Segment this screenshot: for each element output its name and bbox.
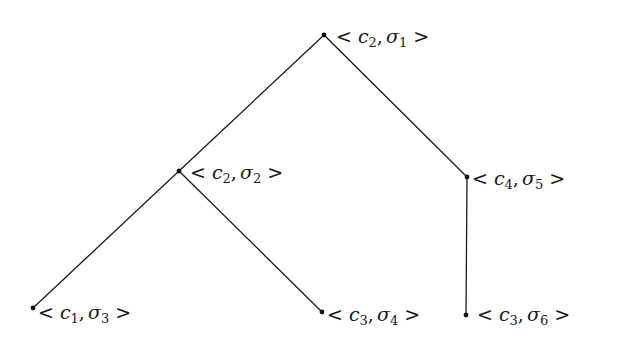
component-symbol: c: [349, 303, 360, 325]
sigma-index: 3: [101, 311, 109, 326]
component-index: 4: [505, 177, 513, 192]
node-label-n3: <c4,σ5>: [472, 169, 565, 188]
edge-n1-n2: [179, 35, 324, 171]
sigma-symbol: σ: [377, 303, 390, 325]
component-symbol: c: [212, 161, 223, 183]
close-angle: >: [549, 167, 565, 189]
open-angle: <: [190, 161, 206, 183]
node-dot-n1: [322, 33, 327, 38]
comma: ,: [231, 161, 237, 183]
close-angle: >: [404, 303, 420, 325]
node-dot-n2: [177, 169, 182, 174]
open-angle: <: [477, 303, 493, 325]
open-angle: <: [327, 303, 343, 325]
component-index: 2: [223, 171, 231, 186]
sigma-index: 1: [399, 35, 407, 50]
close-angle: >: [413, 25, 429, 47]
component-index: 3: [510, 313, 518, 328]
node-dot-n5: [320, 310, 325, 315]
component-symbol: c: [499, 303, 510, 325]
comma: ,: [377, 25, 383, 47]
comma: ,: [368, 303, 374, 325]
sigma-symbol: σ: [527, 303, 540, 325]
sigma-symbol: σ: [240, 161, 253, 183]
component-index: 1: [71, 311, 79, 326]
edge-n2-n5: [179, 171, 322, 312]
open-angle: <: [38, 301, 54, 323]
sigma-symbol: σ: [386, 25, 399, 47]
component-symbol: c: [494, 167, 505, 189]
component-index: 2: [369, 35, 377, 50]
node-dot-n6: [464, 313, 469, 318]
sigma-index: 5: [535, 177, 543, 192]
close-angle: >: [267, 161, 283, 183]
node-dot-n3: [465, 175, 470, 180]
node-label-n4: <c1,σ3>: [38, 303, 131, 322]
edge-n3-n6: [466, 177, 467, 315]
component-symbol: c: [60, 301, 71, 323]
node-dot-n4: [31, 306, 36, 311]
close-angle: >: [115, 301, 131, 323]
comma: ,: [513, 167, 519, 189]
node-label-n2: <c2,σ2>: [190, 163, 283, 182]
node-label-n1: <c2,σ1>: [336, 27, 429, 46]
sigma-symbol: σ: [88, 301, 101, 323]
node-label-n5: <c3,σ4>: [327, 305, 420, 324]
sigma-index: 6: [540, 313, 548, 328]
sigma-symbol: σ: [522, 167, 535, 189]
node-label-n6: <c3,σ6>: [477, 305, 570, 324]
open-angle: <: [472, 167, 488, 189]
edge-n1-n3: [324, 35, 467, 177]
edge-n2-n4: [33, 171, 179, 308]
component-symbol: c: [358, 25, 369, 47]
component-index: 3: [360, 313, 368, 328]
sigma-index: 4: [390, 313, 398, 328]
open-angle: <: [336, 25, 352, 47]
comma: ,: [518, 303, 524, 325]
sigma-index: 2: [253, 171, 261, 186]
comma: ,: [79, 301, 85, 323]
close-angle: >: [554, 303, 570, 325]
